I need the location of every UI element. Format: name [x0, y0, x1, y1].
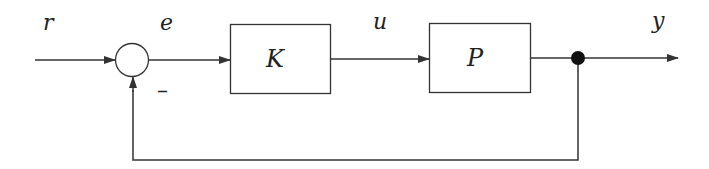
- plant-label: P: [467, 46, 483, 70]
- control-label: u: [373, 11, 387, 33]
- error-label: e: [160, 12, 173, 34]
- controller-label: K: [266, 47, 284, 71]
- diagram-lines: [0, 0, 709, 169]
- block-diagram: r e u y – K P: [0, 0, 709, 169]
- summing-junction: [116, 44, 149, 77]
- output-label: y: [652, 10, 664, 32]
- branch-point: [571, 51, 585, 65]
- feedback-sign: –: [157, 80, 168, 102]
- reference-label: r: [43, 12, 54, 34]
